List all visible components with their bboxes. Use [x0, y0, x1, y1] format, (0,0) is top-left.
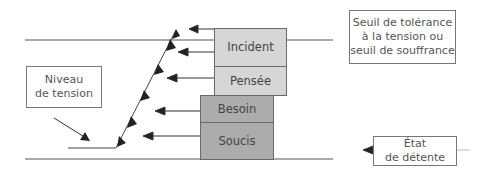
soucis-label: Soucis: [218, 134, 255, 149]
relaxation-line-2: de détente: [385, 151, 445, 165]
tension-level-line-2: de tension: [35, 87, 93, 101]
threshold-line-2: à la tension ou: [362, 30, 443, 44]
besoin-box: Besoin: [200, 95, 274, 123]
incident-box: Incident: [214, 28, 287, 67]
threshold-line-1: Seuil de tolérance: [353, 16, 453, 30]
relaxation-line-1: État: [404, 137, 426, 151]
triangle-up-icon: [117, 29, 180, 147]
tension-diagram: Incident Pensée Besoin Soucis Niveau de …: [0, 0, 484, 187]
arrow-down-right-icon: [80, 132, 90, 141]
pensee-box: Pensée: [214, 66, 287, 96]
tension-level-line-1: Niveau: [45, 73, 83, 87]
threshold-line-3: seuil de souffrance: [350, 44, 454, 58]
tension-level-note: Niveau de tension: [26, 66, 102, 108]
tolerance-threshold-note: Seuil de tolérance à la tension ou seuil…: [349, 10, 456, 64]
pointer-line: [54, 118, 86, 138]
soucis-box: Soucis: [200, 122, 274, 160]
incident-label: Incident: [227, 40, 273, 55]
besoin-label: Besoin: [218, 102, 256, 117]
relaxation-state-note: État de détente: [373, 136, 457, 166]
pensee-label: Pensée: [230, 74, 271, 89]
